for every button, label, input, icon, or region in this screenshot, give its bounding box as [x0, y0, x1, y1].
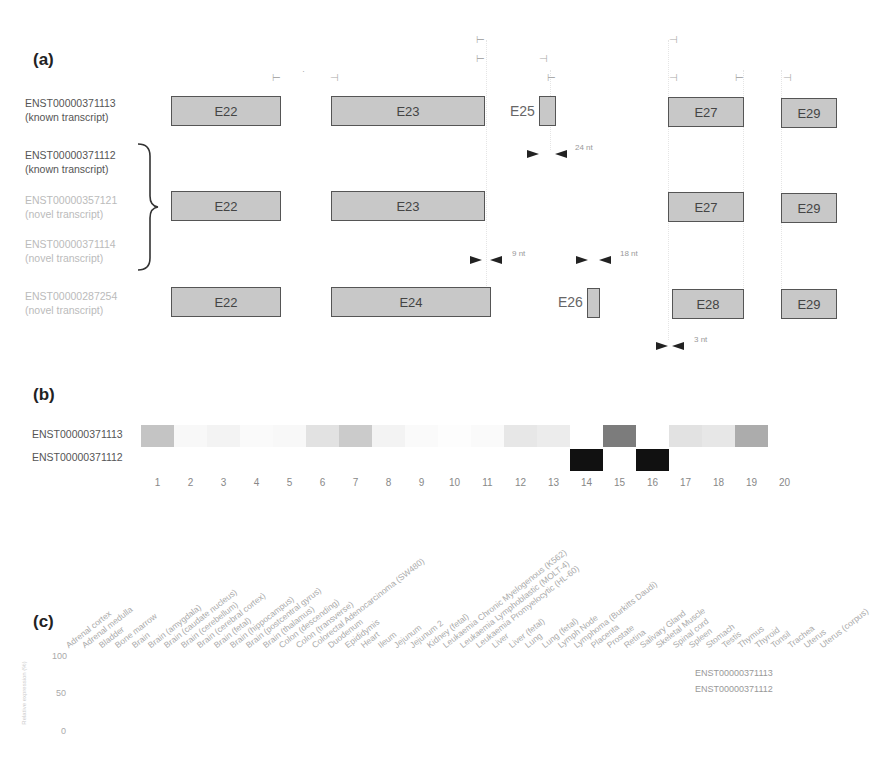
- tissue-label: Uterus (corpus): [818, 606, 870, 650]
- legend-item: ENST00000371113: [695, 668, 773, 678]
- legend-item: ENST00000371112: [695, 684, 773, 694]
